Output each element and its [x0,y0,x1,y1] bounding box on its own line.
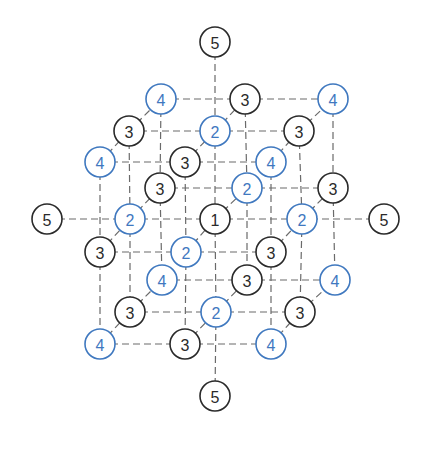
lattice-node-L2-r1-c0: 3 [145,173,175,203]
lattice-node-L2-r2-c2: 4 [320,265,350,295]
cubic-lattice-diagram: 5434323434323521253234343234345 [0,0,426,449]
node-shell-label: 4 [96,337,105,354]
lattice-node-L1-r2-c1: 2 [201,297,231,327]
node-shell-label: 3 [181,337,190,354]
lattice-nodes: 5434323434323521253234343234345 [32,27,399,411]
lattice-node-L0-r1-c2: 3 [256,237,286,267]
node-shell-label: 3 [96,245,105,262]
lattice-node-bottom-5: 5 [200,381,230,411]
node-shell-label: 3 [125,124,134,141]
lattice-node-L2-r0-c2: 4 [318,84,348,114]
node-shell-label: 3 [296,305,305,322]
lattice-node-L0-r0-c1: 3 [170,147,200,177]
lattice-node-top-5: 5 [200,27,230,57]
lattice-node-L0-r0-c0: 4 [85,147,115,177]
lattice-node-L0-r0-c2: 4 [256,147,286,177]
lattice-node-L1-r0-c0: 3 [114,116,144,146]
lattice-node-L1-r1-c0: 2 [115,204,145,234]
node-shell-label: 2 [211,124,220,141]
lattice-node-L2-r0-c1: 3 [230,84,260,114]
node-shell-label: 3 [243,273,252,290]
lattice-node-L1-r1-c2: 2 [287,204,317,234]
lattice-node-L0-r2-c1: 3 [170,329,200,359]
node-shell-label: 2 [126,212,135,229]
node-shell-label: 4 [329,92,338,109]
lattice-node-L0-r2-c2: 4 [256,329,286,359]
lattice-node-L0-r2-c0: 4 [85,329,115,359]
lattice-node-L2-r2-c0: 4 [147,265,177,295]
node-shell-label: 3 [156,181,165,198]
lattice-node-left-5: 5 [32,204,62,234]
lattice-node-center-1: 1 [200,204,230,234]
lattice-node-right-5: 5 [369,204,399,234]
node-shell-label: 4 [267,155,276,172]
node-shell-label: 3 [329,181,338,198]
lattice-node-L0-r1-c0: 3 [85,237,115,267]
lattice-node-L1-r0-c1: 2 [200,116,230,146]
node-shell-label: 2 [298,212,307,229]
node-shell-label: 2 [182,245,191,262]
node-shell-label: 5 [380,212,389,229]
node-shell-label: 3 [181,155,190,172]
node-shell-label: 2 [243,181,252,198]
node-shell-label: 4 [96,155,105,172]
node-shell-label: 1 [211,212,220,229]
lattice-node-L1-r2-c2: 3 [285,297,315,327]
node-shell-label: 5 [211,389,220,406]
node-shell-label: 5 [43,212,52,229]
lattice-node-L1-r0-c2: 3 [284,116,314,146]
node-shell-label: 2 [212,305,221,322]
lattice-node-L2-r2-c1: 3 [232,265,262,295]
lattice-node-L2-r0-c0: 4 [146,84,176,114]
node-shell-label: 4 [331,273,340,290]
lattice-node-L2-r1-c1: 2 [232,173,262,203]
lattice-node-L0-r1-c1: 2 [171,237,201,267]
node-shell-label: 3 [267,245,276,262]
node-shell-label: 3 [241,92,250,109]
node-shell-label: 4 [267,337,276,354]
node-shell-label: 3 [126,305,135,322]
lattice-node-L1-r2-c0: 3 [115,297,145,327]
node-shell-label: 3 [295,124,304,141]
node-shell-label: 4 [158,273,167,290]
node-shell-label: 5 [211,35,220,52]
node-shell-label: 4 [157,92,166,109]
lattice-node-L2-r1-c2: 3 [318,173,348,203]
